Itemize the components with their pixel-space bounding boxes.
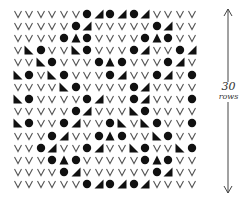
triangle-left-edge-icon	[116, 118, 127, 129]
knit-v-icon	[116, 93, 127, 104]
knit-v-icon	[47, 32, 58, 43]
knit-v-icon	[24, 81, 35, 92]
filled-dot-icon	[24, 118, 35, 129]
filled-dot-icon	[151, 118, 162, 129]
knit-v-icon	[174, 8, 185, 19]
triangle-right-edge-icon	[93, 179, 104, 190]
knit-v-icon	[128, 20, 139, 31]
knit-v-icon	[105, 32, 116, 43]
filled-dot-icon	[128, 179, 139, 190]
triangle-left-edge-icon	[35, 57, 46, 68]
knit-v-icon	[151, 8, 162, 19]
knit-v-icon	[24, 20, 35, 31]
filled-dot-icon	[58, 32, 69, 43]
knit-v-icon	[35, 130, 46, 141]
triangle-right-edge-icon	[186, 45, 197, 56]
triangle-right-edge-icon	[163, 69, 174, 80]
knit-v-icon	[140, 69, 151, 80]
knit-v-icon	[12, 154, 23, 165]
knit-v-icon	[35, 69, 46, 80]
filled-dot-icon	[82, 179, 93, 190]
triangle-left-edge-icon	[47, 69, 58, 80]
knit-v-icon	[58, 57, 69, 68]
knit-v-icon	[35, 32, 46, 43]
knit-v-icon	[58, 106, 69, 117]
triangle-right-edge-icon	[140, 81, 151, 92]
filled-dot-icon	[82, 8, 93, 19]
triangle-right-edge-icon	[93, 8, 104, 19]
knit-v-icon	[58, 93, 69, 104]
filled-dot-icon	[35, 142, 46, 153]
knit-v-icon	[174, 179, 185, 190]
knit-v-icon	[24, 154, 35, 165]
knit-v-icon	[47, 45, 58, 56]
filled-dot-icon	[140, 106, 151, 117]
triangle-left-edge-icon	[128, 142, 139, 153]
knit-v-icon	[116, 167, 127, 178]
knit-v-icon	[24, 179, 35, 190]
knit-v-icon	[70, 57, 81, 68]
knit-v-icon	[93, 167, 104, 178]
filled-dot-icon	[186, 118, 197, 129]
knit-v-icon	[116, 154, 127, 165]
knit-v-icon	[35, 20, 46, 31]
knit-v-icon	[186, 106, 197, 117]
filled-dot-icon	[116, 130, 127, 141]
triangle-left-edge-icon	[12, 93, 23, 104]
filled-dot-icon	[93, 130, 104, 141]
filled-dot-icon	[128, 45, 139, 56]
knit-v-icon	[151, 45, 162, 56]
knit-v-icon	[163, 142, 174, 153]
knit-v-icon	[58, 45, 69, 56]
filled-dot-icon	[105, 8, 116, 19]
knit-v-icon	[93, 20, 104, 31]
knit-v-icon	[47, 106, 58, 117]
triangle-right-edge-icon	[163, 167, 174, 178]
knit-v-icon	[47, 20, 58, 31]
knit-v-icon	[12, 57, 23, 68]
knit-v-icon	[70, 8, 81, 19]
knit-v-icon	[174, 154, 185, 165]
filled-dot-icon	[70, 106, 81, 117]
knit-v-icon	[186, 154, 197, 165]
filled-dot-icon	[82, 142, 93, 153]
knit-v-icon	[186, 20, 197, 31]
triangle-right-edge-icon	[93, 93, 104, 104]
filled-dot-icon	[58, 118, 69, 129]
knit-v-icon	[163, 179, 174, 190]
triangle-up-icon	[151, 154, 162, 165]
knit-v-icon	[24, 167, 35, 178]
filled-dot-icon	[140, 142, 151, 153]
knit-v-icon	[93, 45, 104, 56]
filled-dot-icon	[105, 179, 116, 190]
triangle-right-edge-icon	[140, 45, 151, 56]
knit-v-icon	[58, 8, 69, 19]
row-count-unit: rows	[214, 92, 243, 102]
triangle-left-edge-icon	[24, 45, 35, 56]
triangle-right-edge-icon	[140, 179, 151, 190]
knit-v-icon	[140, 20, 151, 31]
triangle-right-edge-icon	[140, 93, 151, 104]
knit-v-icon	[151, 106, 162, 117]
knit-v-icon	[82, 69, 93, 80]
knit-v-icon	[47, 179, 58, 190]
knit-v-icon	[47, 81, 58, 92]
knit-v-icon	[116, 81, 127, 92]
knit-v-icon	[12, 45, 23, 56]
knit-v-icon	[116, 20, 127, 31]
triangle-right-edge-icon	[116, 179, 127, 190]
knit-v-icon	[35, 154, 46, 165]
knit-v-icon	[70, 130, 81, 141]
knit-v-icon	[12, 106, 23, 117]
triangle-left-edge-icon	[151, 130, 162, 141]
knit-v-icon	[186, 32, 197, 43]
filled-dot-icon	[140, 154, 151, 165]
knit-v-icon	[47, 8, 58, 19]
knit-v-icon	[140, 57, 151, 68]
knit-v-icon	[12, 167, 23, 178]
knit-v-icon	[140, 167, 151, 178]
knit-v-icon	[186, 57, 197, 68]
knit-v-icon	[35, 118, 46, 129]
knit-v-icon	[174, 130, 185, 141]
knit-v-icon	[105, 106, 116, 117]
